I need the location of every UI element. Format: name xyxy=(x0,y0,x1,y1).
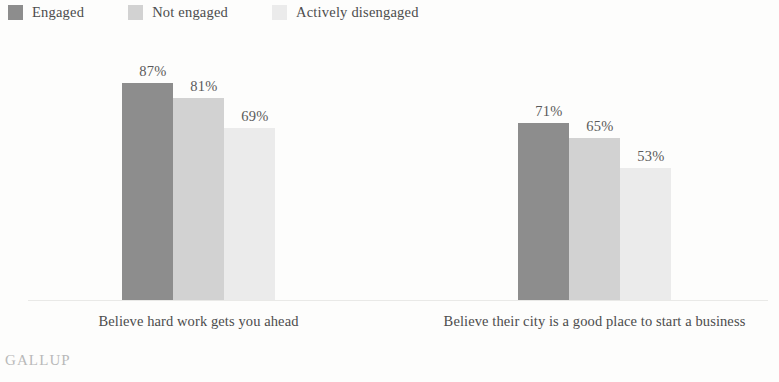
bar-item: 71% xyxy=(518,123,569,301)
axis-baseline xyxy=(28,300,768,301)
bar-value-label: 69% xyxy=(241,108,268,125)
category-label: Believe their city is a good place to st… xyxy=(444,313,746,330)
gallup-bar-chart: Engaged Not engaged Actively disengaged … xyxy=(0,0,779,382)
bar-value-label: 65% xyxy=(586,118,613,135)
bar-group: 71% 65% 53% Believe their city is a good… xyxy=(518,123,671,301)
bar xyxy=(620,168,671,301)
bar-item: 81% xyxy=(173,98,224,301)
bar-value-label: 81% xyxy=(190,78,217,95)
bar-group: 87% 81% 69% Believe hard work gets you a… xyxy=(122,83,275,301)
plot-area: 87% 81% 69% Believe hard work gets you a… xyxy=(0,0,779,382)
bar-item: 65% xyxy=(569,138,620,301)
bar-item: 87% xyxy=(122,83,173,301)
bar-group-bars: 71% 65% 53% xyxy=(518,123,671,301)
bar xyxy=(224,128,275,301)
bar-item: 53% xyxy=(620,168,671,301)
bar xyxy=(122,83,173,301)
gallup-wordmark: GALLUP xyxy=(5,352,71,369)
bar-value-label: 87% xyxy=(139,63,166,80)
bar-item: 69% xyxy=(224,128,275,301)
bar xyxy=(518,123,569,301)
bar xyxy=(173,98,224,301)
bar-value-label: 71% xyxy=(535,103,562,120)
bar-value-label: 53% xyxy=(637,148,664,165)
bar-group-bars: 87% 81% 69% xyxy=(122,83,275,301)
category-label: Believe hard work gets you ahead xyxy=(98,313,298,330)
bar xyxy=(569,138,620,301)
